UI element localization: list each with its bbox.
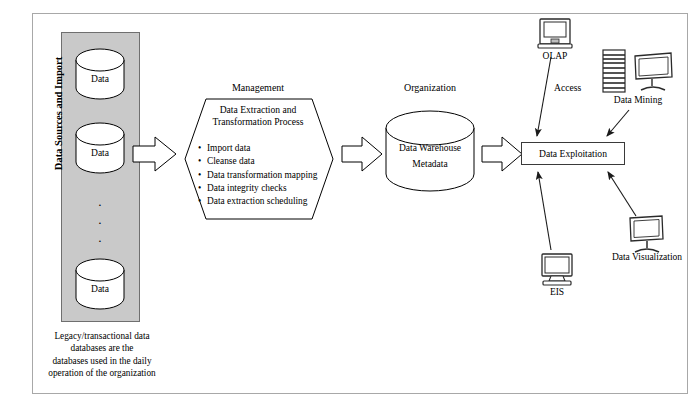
management-bullet-3-text: Data transformation mapping bbox=[207, 170, 317, 180]
caption-line-4: operation of the organization bbox=[22, 367, 182, 379]
crt-monitor-icon bbox=[537, 253, 577, 287]
data-visualization-device[interactable]: Data Visualization bbox=[604, 215, 690, 255]
eis-device[interactable]: EIS bbox=[537, 253, 577, 287]
bullet-glyph: • bbox=[198, 142, 207, 155]
data-cylinder-1: Data bbox=[74, 48, 126, 100]
management-bullet-2-text: Cleanse data bbox=[207, 156, 255, 166]
data-visualization-label: Data Visualization bbox=[604, 252, 690, 262]
stage-label-organization: Organization bbox=[378, 82, 482, 95]
stage-label-management: Management bbox=[196, 82, 320, 95]
eis-label: EIS bbox=[537, 287, 577, 297]
management-bullet-1: •Import data bbox=[198, 142, 338, 155]
data-exploitation-box[interactable]: Data Exploitation bbox=[521, 142, 625, 165]
olap-device[interactable]: OLAP bbox=[535, 18, 575, 50]
bullet-glyph: • bbox=[198, 155, 207, 168]
management-bullet-2: •Cleanse data bbox=[198, 155, 338, 168]
data-cylinder-3-label: Data bbox=[74, 284, 126, 294]
bullet-glyph: • bbox=[198, 169, 207, 182]
management-bullet-4: •Data integrity checks bbox=[198, 182, 338, 195]
caption-line-1: Legacy/transactional data bbox=[22, 330, 182, 342]
data-cylinder-1-label: Data bbox=[74, 74, 126, 84]
server-and-monitor-icon bbox=[601, 48, 675, 94]
data-mining-device[interactable]: Data Mining bbox=[601, 48, 675, 94]
management-title-line-2: Transformation Process bbox=[190, 116, 326, 128]
diagram-canvas: Data Sources and Import Data Data · · · … bbox=[0, 0, 700, 408]
management-bullet-1-text: Import data bbox=[207, 143, 250, 153]
flat-monitor-icon bbox=[604, 215, 690, 255]
bullet-glyph: • bbox=[198, 182, 207, 195]
warehouse-line-2: Metadata bbox=[384, 157, 476, 173]
access-label: Access bbox=[554, 82, 581, 94]
data-cylinder-2: Data bbox=[74, 122, 126, 174]
caption-line-2: databases are the bbox=[22, 342, 182, 354]
ellipsis-dot-2: · bbox=[96, 216, 104, 229]
flow-arrow-management-to-organization bbox=[340, 134, 384, 178]
flow-arrow-sources-to-management bbox=[131, 134, 179, 178]
bullet-glyph: • bbox=[198, 195, 207, 208]
management-bullet-5-text: Data extraction scheduling bbox=[207, 196, 307, 206]
management-bullet-5: •Data extraction scheduling bbox=[198, 195, 338, 208]
data-mining-label: Data Mining bbox=[601, 95, 675, 105]
management-bullet-4-text: Data integrity checks bbox=[207, 183, 287, 193]
management-title-line-1: Data Extraction and bbox=[190, 104, 326, 116]
warehouse-line-1: Data Warehouse bbox=[384, 141, 476, 157]
flow-arrow-organization-to-exploitation bbox=[480, 134, 524, 178]
data-sources-caption: Legacy/transactional data databases are … bbox=[22, 330, 182, 379]
data-cylinder-2-label: Data bbox=[74, 148, 126, 158]
data-warehouse-text: Data Warehouse Metadata bbox=[384, 141, 476, 172]
ellipsis-dot-3: · bbox=[96, 234, 104, 247]
management-title: Data Extraction and Transformation Proce… bbox=[190, 104, 326, 129]
data-sources-axis-label: Data Sources and Import bbox=[53, 34, 64, 194]
management-bullet-list: •Import data •Cleanse data •Data transfo… bbox=[198, 142, 338, 209]
crt-monitor-icon bbox=[535, 18, 575, 50]
caption-line-3: databases used in the daily bbox=[22, 355, 182, 367]
management-bullet-3: •Data transformation mapping bbox=[198, 169, 338, 182]
data-cylinder-3: Data bbox=[74, 258, 126, 310]
ellipsis-dot-1: · bbox=[96, 198, 104, 211]
olap-label: OLAP bbox=[535, 51, 575, 61]
